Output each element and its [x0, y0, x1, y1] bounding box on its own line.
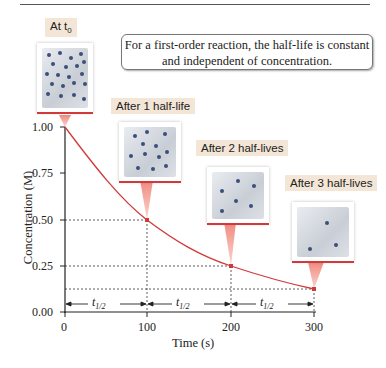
y-tick-0.00: 0.00 [32, 305, 53, 320]
x-tick-100: 100 [138, 320, 156, 335]
t-sub: 1/2 [263, 302, 273, 311]
half-life-label-2: t1/2 [176, 295, 190, 311]
half-life-label-3: t1/2 [260, 295, 274, 311]
t-sub: 1/2 [95, 302, 105, 311]
t-sub: 1/2 [179, 302, 189, 311]
x-axis-label: Time (s) [172, 336, 214, 351]
concentration-chart [0, 0, 386, 368]
x-tick-200: 200 [222, 320, 240, 335]
y-tick-1.00: 1.00 [32, 120, 53, 135]
x-tick-0: 0 [61, 320, 67, 335]
x-tick-300: 300 [305, 320, 323, 335]
y-axis-label: Concentration (M) [21, 163, 36, 273]
half-life-label-1: t1/2 [92, 295, 106, 311]
